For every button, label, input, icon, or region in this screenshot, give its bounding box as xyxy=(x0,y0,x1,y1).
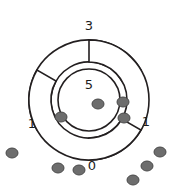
dot xyxy=(154,147,166,157)
triskelion-diagram: 3 5 1 1 0 xyxy=(0,0,178,190)
figure-canvas: ▪▪ ▪▪ ▪▪▪▪▪ ▪▪ ▪▪▪ ▪▪▪▪▪ 3 5 xyxy=(0,0,178,190)
label-center-circle: 5 xyxy=(85,77,93,92)
dot xyxy=(73,165,85,175)
dot xyxy=(127,175,139,185)
label-right-arc: 1 xyxy=(142,114,150,129)
label-left-arc: 1 xyxy=(28,116,36,131)
dot xyxy=(55,112,67,122)
label-bottom: 0 xyxy=(88,158,96,173)
dot xyxy=(118,113,130,123)
label-top-arc: 3 xyxy=(85,18,93,33)
dot xyxy=(92,99,104,109)
dot xyxy=(6,148,18,158)
dot xyxy=(52,163,64,173)
dot xyxy=(117,97,129,107)
dot xyxy=(141,161,153,171)
